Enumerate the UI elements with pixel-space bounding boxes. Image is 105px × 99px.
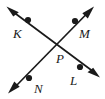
point-label-k: K [12,26,23,41]
line-kl [7,7,101,78]
point-label-m: M [78,26,91,41]
intersecting-lines-svg: K M P L N [0,0,105,99]
point-dot-n [26,75,32,81]
point-dot-k [25,17,31,23]
geometry-figure: K M P L N [0,0,105,99]
point-dot-l [77,64,83,70]
point-label-p: P [55,51,64,66]
point-label-n: N [33,81,44,96]
point-label-l: L [69,73,77,88]
point-dot-m [72,18,78,24]
line-nm [8,7,94,94]
